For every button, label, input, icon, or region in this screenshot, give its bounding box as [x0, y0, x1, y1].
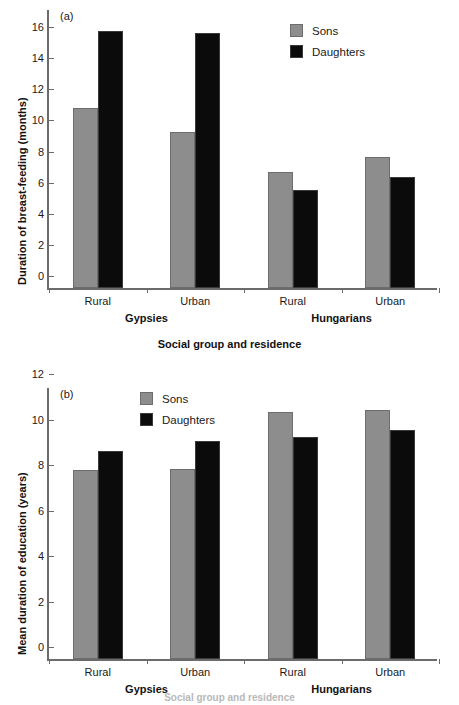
x-axis-category-label: Rural — [85, 295, 111, 307]
bar-sons — [365, 410, 390, 659]
x-axis-tick-mark — [147, 288, 148, 293]
legend-item-sons: Sons — [140, 392, 215, 405]
x-axis-tick-mark — [49, 288, 50, 293]
legend-item-daughters: Daughters — [290, 45, 365, 58]
y-axis-tick: 10 — [32, 414, 49, 426]
bar-daughters — [98, 31, 123, 288]
y-axis-tick-label: 10 — [32, 114, 49, 126]
bar-sons — [73, 108, 98, 288]
bar-sons — [170, 469, 195, 659]
x-axis-tick-mark — [342, 659, 343, 664]
y-axis-tick-label: 10 — [32, 414, 49, 426]
y-axis-tick-label: 16 — [32, 21, 49, 33]
bar-sons — [170, 132, 195, 288]
y-axis-tick-label: 12 — [32, 368, 49, 380]
bar-daughters — [390, 430, 415, 659]
y-axis-tick: 2 — [38, 596, 49, 608]
y-axis-tick: 8 — [38, 459, 49, 471]
x-axis-tick-mark — [342, 288, 343, 293]
x-axis-category-label: Urban — [375, 295, 405, 307]
x-axis-category-label: Urban — [375, 666, 405, 678]
bar-sons — [73, 470, 98, 659]
y-axis-tick-mark — [49, 120, 54, 121]
y-axis-tick-mark — [49, 602, 54, 603]
legend-label-sons: Sons — [312, 25, 338, 37]
bar-sons — [268, 172, 293, 288]
y-axis-tick: 0 — [38, 270, 49, 282]
bar-daughters — [390, 177, 415, 288]
y-axis-tick-mark — [49, 511, 54, 512]
x-axis-category-label: Urban — [180, 666, 210, 678]
x-axis-tick-mark — [244, 659, 245, 664]
x-axis-title-a: Social group and residence — [0, 338, 459, 350]
y-axis-tick-label: 6 — [38, 177, 49, 189]
legend-label-daughters: Daughters — [312, 46, 365, 58]
y-axis-tick-label: 18 — [32, 0, 49, 2]
y-axis-tick-mark — [49, 89, 54, 90]
legend-label-sons: Sons — [162, 393, 188, 405]
y-axis-tick: 0 — [38, 641, 49, 653]
bar-daughters — [195, 441, 220, 659]
y-axis-tick-label: 12 — [32, 83, 49, 95]
y-axis-label-a: Duration of breast-feeding (months) — [16, 97, 28, 285]
x-axis-category-label: Urban — [180, 295, 210, 307]
x-axis-group-label: Hungarians — [311, 312, 372, 324]
y-axis-tick: 6 — [38, 177, 49, 189]
y-axis-label-b: Mean duration of education (years) — [16, 472, 28, 655]
y-axis-tick-label: 0 — [38, 270, 49, 282]
y-axis-tick-mark — [49, 465, 54, 466]
y-axis-tick-label: 4 — [38, 208, 49, 220]
y-axis-tick: 2 — [38, 239, 49, 251]
legend-a: Sons Daughters — [290, 24, 365, 66]
y-axis-tick-mark — [49, 183, 54, 184]
y-axis-tick: 4 — [38, 550, 49, 562]
y-axis-tick: 8 — [38, 146, 49, 158]
bar-daughters — [293, 190, 318, 288]
y-axis-tick-label: 8 — [38, 459, 49, 471]
figure-caption-partial: Social group and residence — [0, 692, 459, 703]
x-axis-category-label: Rural — [280, 666, 306, 678]
bar-daughters — [293, 437, 318, 659]
legend-swatch-sons-icon — [140, 392, 153, 405]
y-axis-tick: 4 — [38, 208, 49, 220]
x-axis-tick-mark — [439, 288, 440, 293]
x-axis-category-label: Rural — [85, 666, 111, 678]
legend-b: Sons Daughters — [140, 392, 215, 434]
plot-area-b: 024681012RuralUrbanRuralUrbanGypsiesHung… — [47, 388, 437, 661]
y-axis-tick-mark — [49, 214, 54, 215]
x-axis-group-label: Gypsies — [125, 312, 168, 324]
legend-item-sons: Sons — [290, 24, 365, 37]
x-axis-tick-mark — [147, 659, 148, 664]
bar-daughters — [195, 33, 220, 288]
legend-swatch-sons-icon — [290, 24, 303, 37]
y-axis-tick-label: 2 — [38, 239, 49, 251]
y-axis-tick: 6 — [38, 505, 49, 517]
bar-daughters — [98, 451, 123, 659]
y-axis-tick-label: 14 — [32, 52, 49, 64]
y-axis-tick-mark — [49, 420, 54, 421]
chart-panel-a: Duration of breast-feeding (months) (a) … — [0, 0, 459, 360]
y-axis-tick-mark — [49, 152, 54, 153]
y-axis-tick-mark — [49, 276, 54, 277]
y-axis-tick-mark — [49, 245, 54, 246]
y-axis-tick-mark — [49, 556, 54, 557]
y-axis-tick: 10 — [32, 114, 49, 126]
bar-sons — [365, 157, 390, 288]
y-axis-tick: 18 — [32, 0, 49, 2]
legend-swatch-daughters-icon — [290, 45, 303, 58]
y-axis-tick-mark — [49, 647, 54, 648]
y-axis-tick-label: 6 — [38, 505, 49, 517]
y-axis-tick-mark — [49, 374, 54, 375]
x-axis-tick-mark — [244, 288, 245, 293]
x-axis-tick-mark — [439, 659, 440, 664]
plot-area-a: 024681012141618RuralUrbanRuralUrbanGypsi… — [47, 10, 437, 290]
chart-panel-b: Mean duration of education (years) (b) 0… — [0, 360, 459, 705]
y-axis-tick-label: 0 — [38, 641, 49, 653]
y-axis-tick-label: 8 — [38, 146, 49, 158]
legend-swatch-daughters-icon — [140, 413, 153, 426]
y-axis-tick: 12 — [32, 368, 49, 380]
y-axis-tick: 14 — [32, 52, 49, 64]
x-axis-category-label: Rural — [280, 295, 306, 307]
y-axis-tick: 12 — [32, 83, 49, 95]
y-axis-tick-mark — [49, 27, 54, 28]
